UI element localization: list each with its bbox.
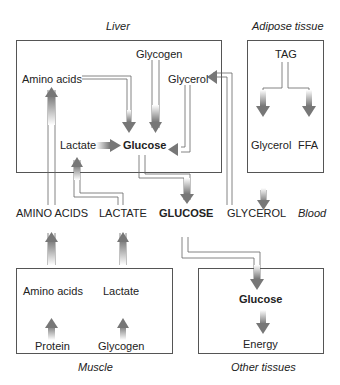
blood-label: Blood — [298, 207, 326, 220]
blood-glucose: GLUCOSE — [159, 207, 213, 220]
blood-lactate: LACTATE — [99, 207, 147, 220]
liver-lactate: Lactate — [60, 139, 96, 152]
other-tissues-title: Other tissues — [231, 361, 296, 374]
adipose-title: Adipose tissue — [252, 20, 324, 33]
blood-amino-acids: AMINO ACIDS — [16, 207, 88, 220]
muscle-glycogen: Glycogen — [98, 340, 144, 353]
liver-glucose: Glucose — [123, 139, 166, 152]
liver-title: Liver — [106, 20, 130, 33]
muscle-amino-acids: Amino acids — [23, 285, 83, 298]
adipose-glycerol: Glycerol — [251, 139, 291, 152]
other-glucose: Glucose — [239, 293, 282, 306]
liver-amino-acids: Amino acids — [22, 73, 82, 86]
muscle-lactate: Lactate — [103, 285, 139, 298]
adipose-ffa: FFA — [298, 139, 318, 152]
muscle-title: Muscle — [78, 361, 113, 374]
liver-glycogen: Glycogen — [136, 48, 182, 61]
blood-glycerol: GLYCEROL — [227, 207, 286, 220]
adipose-tag: TAG — [275, 48, 297, 61]
liver-glycerol: Glycerol — [168, 73, 208, 86]
muscle-protein: Protein — [35, 340, 70, 353]
other-energy: Energy — [243, 338, 278, 351]
